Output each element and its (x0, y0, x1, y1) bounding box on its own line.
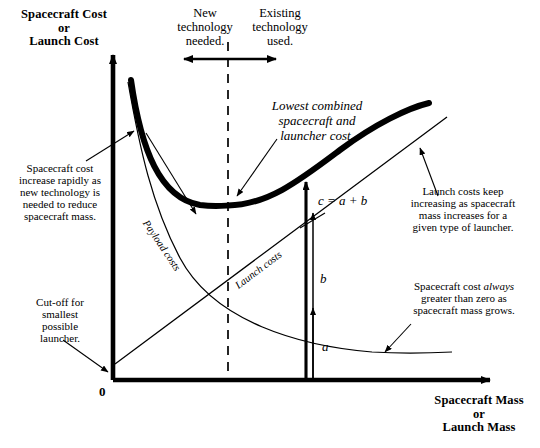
leader-spacecraft-cost-rise (86, 131, 134, 161)
always-line1-pre: Spacecraft cost (414, 280, 484, 292)
x-axis-label-line1: Spacecraft Mass (420, 394, 538, 408)
x-axis-label: Spacecraft Mass or Launch Mass (420, 394, 538, 435)
regime-existing-line3: used. (232, 34, 328, 48)
cutoff-line4: launcher. (14, 333, 106, 345)
segment-b-label: b (320, 272, 327, 286)
annotation-cutoff: Cut-off for smallest possible launcher. (14, 297, 106, 345)
leader-spacecraft-always (385, 324, 411, 352)
lowest-combined-line2: spacecraft and (247, 113, 387, 128)
always-line3: spacecraft mass grows. (396, 305, 532, 317)
x-axis-label-line3: Launch Mass (420, 421, 538, 435)
leader-cutoff (63, 340, 108, 372)
figure-canvas: Spacecraft Cost or Launch Cost Spacecraf… (0, 0, 540, 448)
launch-increase-line2: increasing as spacecraft (396, 198, 530, 210)
annotation-spacecraft-cost-rise: Spacecraft cost increase rapidly as new … (8, 163, 112, 222)
origin-label: 0 (99, 385, 106, 399)
launch-increase-line3: mass increases for a (396, 210, 530, 222)
y-axis-label-line3: Launch Cost (14, 35, 114, 49)
always-emphasis: always (484, 280, 515, 292)
annotation-spacecraft-cost-always-positive: Spacecraft cost always greater than zero… (396, 281, 532, 317)
leader-lowest-combined (237, 139, 277, 196)
y-axis-label-line2: or (14, 22, 114, 36)
y-axis-label: Spacecraft Cost or Launch Cost (14, 8, 114, 49)
cutoff-line3: possible (14, 321, 106, 333)
measurement-arrows (306, 182, 313, 378)
regime-existing-line1: Existing (232, 6, 328, 20)
annotation-lowest-combined-cost: Lowest combined spacecraft and launcher … (247, 98, 387, 143)
leader-payload-curve (146, 133, 196, 214)
launch-increase-line4: given type of launcher. (396, 222, 530, 234)
cost-rise-line5: spacecraft mass. (8, 211, 112, 223)
cutoff-line2: smallest (14, 309, 106, 321)
always-line2: greater than zero as (396, 293, 532, 305)
segment-a-label: a (322, 340, 329, 354)
lowest-combined-line1: Lowest combined (247, 98, 387, 113)
cost-rise-line2: increase rapidly as (8, 175, 112, 187)
y-axis-label-line1: Spacecraft Cost (14, 8, 114, 22)
cost-rise-line3: new technology is (8, 187, 112, 199)
x-axis-label-line2: or (420, 408, 538, 422)
regime-existing-line2: technology (232, 20, 328, 34)
cost-rise-line4: needed to reduce (8, 199, 112, 211)
annotation-leaders (63, 131, 438, 372)
annotation-launch-costs-increase: Launch costs keep increasing as spacecra… (396, 186, 530, 234)
regime-existing-technology-label: Existing technology used. (232, 6, 328, 48)
lowest-combined-line3: launcher cost. (247, 128, 387, 143)
total-cost-equation-label: c = a + b (318, 194, 367, 208)
